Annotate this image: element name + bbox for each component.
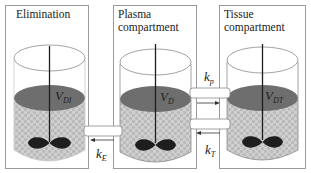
plasma-tank — [120, 44, 191, 162]
diagram-graphics — [0, 0, 311, 173]
rate-label-kT: kT — [205, 143, 215, 159]
volume-label-plasma: VD — [160, 90, 174, 106]
volume-label-tissue: VDT — [265, 89, 283, 105]
pipe-plasma-to-tissue — [190, 88, 230, 105]
pipe-tissue-to-plasma — [190, 119, 230, 135]
tissue-tank — [227, 44, 298, 160]
elimination-tank — [14, 45, 85, 161]
arrow-right-icon — [215, 101, 220, 105]
volume-label-elimination: VDI — [55, 89, 71, 105]
arrow-left-icon — [90, 138, 95, 142]
pipe-plasma-to-elimination — [84, 126, 122, 142]
rate-label-kE: kE — [96, 147, 107, 163]
rate-label-kp: kp — [204, 70, 214, 86]
arrow-left-icon — [196, 131, 201, 135]
